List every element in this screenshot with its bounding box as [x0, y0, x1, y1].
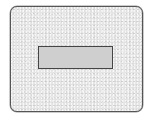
inner-rectangle [38, 46, 113, 69]
